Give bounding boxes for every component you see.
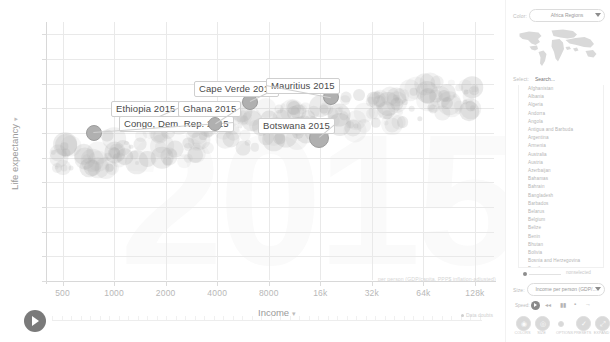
country-list-item[interactable]: Belarus (519, 208, 603, 216)
size-button[interactable]: ◎ (535, 316, 550, 331)
country-list[interactable]: AfghanistanAlbaniaAlgeriaAndorraAngolaAn… (518, 85, 604, 268)
country-list-item[interactable]: Brazil (519, 265, 603, 268)
country-list-item[interactable]: Azerbaijan (519, 167, 603, 175)
data-doubts-link[interactable]: Data doubts (466, 312, 493, 318)
country-list-item[interactable]: Antigua and Barbuda (519, 126, 603, 134)
bubble[interactable] (459, 101, 479, 121)
pause-icon[interactable]: ▮▮ (560, 301, 566, 308)
country-list-item[interactable]: Afghanistan (519, 85, 603, 93)
x-tick-label: 32k (365, 288, 379, 298)
bubble[interactable] (427, 104, 435, 112)
bubble[interactable] (135, 161, 139, 165)
country-list-item[interactable]: Bahamas (519, 175, 603, 183)
timeline-tick (451, 316, 452, 320)
opacity-slider-handle[interactable] (523, 272, 527, 276)
options-button-caption: OPTIONS (556, 331, 573, 335)
x-tick-label: 128k (465, 288, 484, 298)
timeline-tick (128, 316, 129, 320)
world-map[interactable] (514, 26, 604, 70)
stop-icon[interactable]: ▪ (574, 301, 576, 307)
bubble[interactable] (402, 99, 408, 105)
country-list-item[interactable]: Bolivia (519, 249, 603, 257)
select-control-row: Select: (513, 74, 605, 84)
speed-label: Speed: (515, 303, 530, 308)
timeline-tick (290, 316, 291, 320)
timeline-tick (309, 316, 310, 320)
y-tick-mark (42, 34, 47, 35)
bubble[interactable] (235, 141, 250, 156)
bubble[interactable] (416, 81, 438, 103)
country-list-item[interactable]: Austria (519, 159, 603, 167)
opacity-slider-track[interactable] (529, 274, 561, 275)
x-tick-mark (269, 281, 270, 286)
country-list-item[interactable]: Algeria (519, 101, 603, 109)
country-list-item[interactable]: Bosnia and Herzegovina (519, 257, 603, 265)
bubble[interactable] (319, 105, 328, 114)
forward-icon[interactable]: → (585, 301, 591, 307)
bubble[interactable] (366, 108, 378, 120)
colors-button-caption: COLORS (514, 331, 530, 335)
options-button[interactable] (558, 321, 564, 327)
bubble-label[interactable]: Ghana 2015 (178, 101, 241, 117)
gridline-vertical (372, 22, 373, 280)
bubble[interactable] (391, 115, 406, 130)
timeline-tick (62, 316, 63, 320)
search-input[interactable] (535, 74, 595, 83)
country-list-item[interactable]: Belgium (519, 216, 603, 224)
bubble[interactable] (353, 89, 365, 101)
bubble[interactable] (463, 89, 468, 94)
country-list-item[interactable]: Armenia (519, 142, 603, 150)
country-list-item[interactable]: Bangladesh (519, 192, 603, 200)
presets-button[interactable]: ✓ (576, 316, 591, 331)
bubble[interactable] (408, 105, 415, 112)
y-tick-mark (42, 232, 47, 233)
x-tick-mark (217, 281, 218, 286)
speed-control-row: Speed: ◂◂ ▮▮ ▪ → (515, 300, 607, 312)
y-tick-mark (42, 281, 47, 282)
x-tick-mark (114, 281, 115, 286)
x-tick-label: 64k (416, 288, 430, 298)
gridline-vertical (217, 22, 218, 280)
country-list-item[interactable]: Bahrain (519, 183, 603, 191)
country-list-item[interactable]: Australia (519, 151, 603, 159)
expand-button[interactable]: ⤢ (595, 316, 610, 331)
bubble[interactable] (384, 120, 389, 125)
country-list-item[interactable]: Barbados (519, 200, 603, 208)
size-select[interactable]: Income per person (GDP/... (527, 283, 605, 296)
country-list-item[interactable]: Angola (519, 118, 603, 126)
opacity-control-row[interactable]: nonselected (516, 270, 608, 279)
play-icon[interactable] (531, 301, 540, 310)
y-axis-title[interactable]: Life expectancy ▾ (9, 117, 20, 190)
x-tick-mark (372, 281, 373, 286)
bubble[interactable] (340, 91, 351, 102)
country-list-item[interactable]: Andorra (519, 110, 603, 118)
country-list-item[interactable]: Belize (519, 224, 603, 232)
bubble-label[interactable]: Ethiopia 2015 (111, 101, 180, 117)
timeline-tick (432, 316, 433, 320)
timeline-tick (214, 316, 215, 320)
bubble[interactable] (373, 95, 385, 107)
x-tick-label: 8000 (259, 288, 279, 298)
timeline-tick (366, 316, 367, 320)
country-list-item[interactable]: Argentina (519, 134, 603, 142)
x-tick-label: 1000 (104, 288, 124, 298)
play-button[interactable] (24, 310, 46, 332)
bubble[interactable] (130, 150, 139, 159)
opacity-nonselected-label: nonselected (566, 270, 591, 275)
expand-button-caption: EXPAND (594, 331, 609, 335)
timeline-tick (109, 316, 110, 320)
timeline-tick (138, 316, 139, 320)
size-control-row: Size: Income per person (GDP/... (513, 283, 605, 296)
country-list-item[interactable]: Benin (519, 233, 603, 241)
y-tick-mark (42, 133, 47, 134)
country-list-item[interactable]: Bhutan (519, 241, 603, 249)
presets-button-caption: PRESETS (574, 331, 592, 335)
color-select[interactable]: Africa Regions (529, 9, 605, 22)
timeline-tick (328, 316, 329, 320)
x-tick-label: 500 (55, 288, 70, 298)
bubble[interactable] (177, 154, 191, 168)
country-list-item[interactable]: Albania (519, 93, 603, 101)
rewind-icon[interactable]: ◂◂ (545, 301, 551, 308)
colors-button[interactable]: ◉ (516, 316, 531, 331)
bubble[interactable] (161, 148, 178, 165)
